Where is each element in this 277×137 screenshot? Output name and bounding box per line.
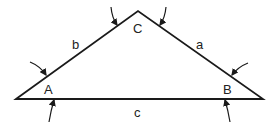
side-label-a: a [196,37,204,52]
triangle-diagram: C A B b a c [0,0,277,137]
arrow-icon [111,7,117,25]
vertex-label-b: B [223,82,232,97]
diagram-svg: C A B b a c [0,0,277,137]
side-label-c: c [134,105,141,120]
arrow-icon [225,100,230,122]
vertex-label-c: C [133,21,142,36]
side-label-b: b [72,37,79,52]
arrow-icon [30,62,46,75]
arrow-icon [160,7,166,25]
arrow-icon [232,63,248,75]
arrow-icon [49,100,54,122]
vertex-label-a: A [44,82,53,97]
